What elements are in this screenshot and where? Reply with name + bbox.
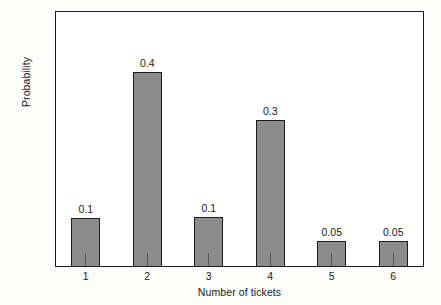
y-axis-title: Probability [20, 22, 32, 142]
bar-center-tick [393, 253, 394, 266]
bar[interactable] [194, 217, 223, 267]
bar[interactable] [71, 218, 100, 267]
x-axis-title: Number of tickets [55, 286, 424, 298]
bar-value-label: 0.05 [303, 226, 360, 238]
bar-center-tick [85, 253, 86, 266]
bar-value-label: 0.1 [180, 202, 237, 214]
bar[interactable] [133, 72, 162, 267]
x-tick-label: 3 [180, 270, 237, 282]
bar-center-tick [208, 253, 209, 266]
x-tick-label: 5 [303, 270, 360, 282]
bar[interactable] [256, 120, 285, 267]
x-tick-label: 4 [242, 270, 299, 282]
bar-center-tick [270, 253, 271, 266]
bar-value-label: 0.1 [57, 203, 114, 215]
bar[interactable] [379, 241, 408, 267]
bars-layer: 0.10.40.10.30.050.05 [55, 11, 424, 267]
bar-center-tick [147, 253, 148, 266]
bar-value-label: 0.4 [119, 57, 176, 69]
bar-value-label: 0.05 [365, 226, 422, 238]
x-tick-label: 2 [119, 270, 176, 282]
bar-value-label: 0.3 [242, 105, 299, 117]
bar-center-tick [331, 253, 332, 266]
bar[interactable] [317, 241, 346, 267]
bar-chart-figure: Probability 00.10.20.30.40.5 0.10.40.10.… [0, 0, 441, 305]
x-tick-label: 1 [57, 270, 114, 282]
x-tick-label: 6 [365, 270, 422, 282]
